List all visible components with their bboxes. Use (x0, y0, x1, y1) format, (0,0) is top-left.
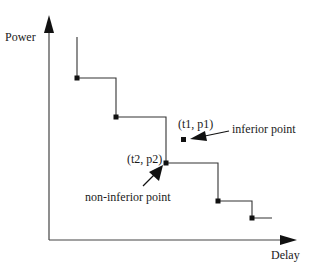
x-axis-label: Delay (271, 248, 300, 262)
inferior-point-label: inferior point (232, 122, 296, 136)
y-axis-arrow-icon (44, 15, 54, 33)
y-axis (44, 15, 54, 240)
non-inferior-point-arrow-icon (143, 165, 163, 186)
x-axis (49, 235, 297, 245)
power-delay-diagram: Power Delay (t1, p1) inferior point (t2,… (0, 0, 318, 275)
inferior-point-arrow-icon (190, 131, 229, 141)
curve-point (75, 76, 80, 81)
curve-point (216, 199, 221, 204)
inferior-point-marker (181, 137, 186, 142)
x-axis-arrow-icon (280, 235, 297, 245)
y-axis-label: Power (5, 30, 36, 44)
non-inferior-point-label: non-inferior point (85, 190, 171, 204)
non-inferior-point-coords-label: (t2, p2) (127, 152, 162, 166)
inferior-point-coords-label: (t1, p1) (178, 117, 213, 131)
non-inferior-point-marker (164, 161, 169, 166)
curve-point (250, 216, 255, 221)
curve-point (114, 115, 119, 120)
